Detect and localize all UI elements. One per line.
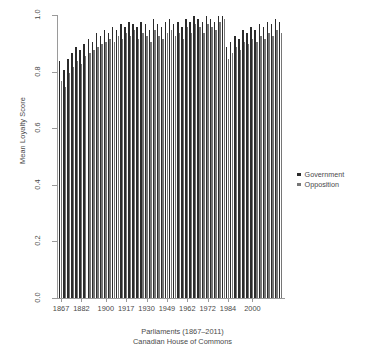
x-tick-mark [187,298,188,302]
bar-opposition [276,30,277,298]
bar-opposition [207,24,208,298]
x-tick-mark [61,298,62,302]
bar-opposition [85,56,86,298]
y-tick-label: 0.0 [33,287,42,309]
y-tick-mark [52,15,57,16]
x-tick-mark [81,298,82,302]
bar-opposition [215,30,216,298]
y-axis-line [57,15,58,298]
bar-opposition [81,64,82,298]
plot-area [59,13,283,298]
bar-opposition [167,33,168,298]
bar-opposition [150,42,151,299]
x-axis-title: Parliaments (1867–2011) [0,327,365,336]
bar-opposition [146,36,147,298]
bar-group [267,13,270,298]
x-tick-label: 2000 [235,304,269,313]
bar-group [161,13,164,298]
bar-opposition [65,87,66,298]
bar-group [88,13,91,298]
bar-group [116,13,119,298]
bar-group [218,13,221,298]
bar-opposition [93,50,94,298]
bar-group [279,13,282,298]
bar-group [92,13,95,298]
x-tick-mark [252,298,253,302]
bar-opposition [154,30,155,298]
bar-opposition [195,24,196,298]
x-axis-subtitle: Canadian House of Commons [0,337,365,346]
bar-opposition [138,39,139,298]
bar-group [124,13,127,298]
bar-opposition [158,36,159,298]
x-tick-mark [106,298,107,302]
bar-group [271,13,274,298]
bar-group [202,13,205,298]
bar-opposition [126,33,127,298]
x-tick-mark [147,298,148,302]
bar-group [254,13,257,298]
bar-group [246,13,249,298]
bar-group [210,13,213,298]
y-tick-mark [52,298,57,299]
bar-group [108,13,111,298]
bar-group [263,13,266,298]
bar-opposition [252,39,253,298]
y-tick-label: 0.2 [33,230,42,252]
bar-opposition [187,27,188,298]
y-tick-mark [52,185,57,186]
bar-opposition [236,47,237,298]
bar-opposition [118,36,119,298]
bar-opposition [268,33,269,298]
bar-opposition [105,42,106,299]
bar-group [206,13,209,298]
bar-group [83,13,86,298]
bar-group [104,13,107,298]
y-tick-label: 0.8 [33,60,42,82]
bar-group [275,13,278,298]
bar-group [128,13,131,298]
x-tick-mark [167,298,168,302]
bar-group [120,13,123,298]
chart-legend: GovernmentOpposition [297,170,363,190]
legend-item: Government [297,170,363,179]
y-tick-mark [52,241,57,242]
x-tick-mark [228,298,229,302]
bar-opposition [162,39,163,298]
bar-group [259,13,262,298]
bar-group [132,13,135,298]
bar-opposition [77,61,78,298]
bar-opposition [171,30,172,298]
bar-opposition [114,42,115,299]
bar-group [145,13,148,298]
legend-item: Opposition [297,180,363,189]
y-tick-label: 0.6 [33,117,42,139]
y-tick-mark [52,128,57,129]
bar-group [250,13,253,298]
bar-opposition [122,39,123,298]
y-tick-mark [52,72,57,73]
bar-group [96,13,99,298]
bar-group [226,13,229,298]
bar-group [79,13,82,298]
bar-opposition [219,22,220,298]
bar-opposition [248,44,249,298]
y-tick-label: 1.0 [33,4,42,26]
bar-opposition [260,36,261,298]
bar-group [136,13,139,298]
bar-opposition [142,33,143,298]
bar-opposition [109,39,110,298]
bar-group [230,13,233,298]
bar-opposition [224,19,225,298]
bar-group [242,13,245,298]
x-axis-line [57,298,285,299]
bar-group [157,13,160,298]
bar-opposition [256,42,257,299]
bar-opposition [89,53,90,298]
bar-group [140,13,143,298]
bar-group [181,13,184,298]
x-tick-mark [208,298,209,302]
y-axis-title: Mean Loyalty Score [18,71,27,191]
bar-group [153,13,156,298]
bar-group [67,13,70,298]
